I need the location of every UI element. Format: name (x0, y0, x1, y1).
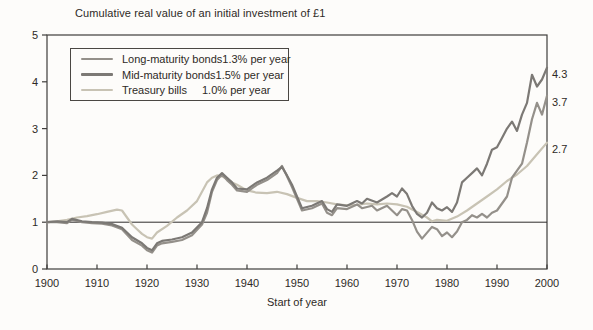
y-axis-tick-label: 0 (32, 263, 38, 275)
series-line-treasury-bills (47, 143, 547, 239)
x-axis-tick-label: 1940 (235, 277, 259, 289)
y-axis-tick-label: 2 (32, 169, 38, 181)
legend-label: Mid-maturity bonds (122, 69, 216, 81)
end-value-label-treasury-bills: 2.7 (552, 142, 588, 156)
y-axis-tick-label: 5 (32, 29, 38, 41)
chart-figure: Cumulative real value of an initial inve… (0, 0, 593, 330)
legend-row-mid-maturity-bonds: Mid-maturity bonds 1.5% per year (81, 67, 282, 83)
x-axis-tick-label: 1950 (285, 277, 309, 289)
y-axis-tick-label: 3 (32, 123, 38, 135)
x-axis-tick-label: 1920 (135, 277, 159, 289)
x-axis-tick-label: 1900 (35, 277, 59, 289)
legend-label: Long-maturity bonds (122, 53, 222, 65)
end-value-label-mid-maturity-bonds: 4.3 (552, 67, 588, 81)
y-axis-tick-label: 1 (32, 216, 38, 228)
x-axis-tick-label: 1960 (335, 277, 359, 289)
legend-row-treasury-bills: Treasury bills 1.0% per year (81, 82, 282, 98)
x-axis-tick-label: 2000 (535, 277, 559, 289)
mid-maturity-bonds-line-swatch (81, 73, 113, 76)
legend-rate: 1.0% per year (202, 84, 282, 96)
x-axis-tick-label: 1990 (485, 277, 509, 289)
end-value-label-long-maturity-bonds: 3.7 (552, 95, 588, 109)
treasury-bills-line-swatch (81, 89, 113, 92)
long-maturity-bonds-line-swatch (81, 58, 113, 61)
legend-label: Treasury bills (122, 84, 202, 96)
x-axis-label: Start of year (267, 296, 327, 308)
legend-row-long-maturity-bonds: Long-maturity bonds 1.3% per year (81, 51, 282, 67)
x-axis-tick-label: 1970 (385, 277, 409, 289)
x-axis-tick-label: 1910 (85, 277, 109, 289)
x-axis-tick-label: 1980 (435, 277, 459, 289)
x-axis-tick-label: 1930 (185, 277, 209, 289)
y-axis-tick-label: 4 (32, 76, 38, 88)
legend-rate: 1.3% per year (222, 53, 290, 65)
legend-rate: 1.5% per year (216, 69, 284, 81)
chart-legend: Long-maturity bonds 1.3% per year Mid-ma… (70, 48, 289, 101)
